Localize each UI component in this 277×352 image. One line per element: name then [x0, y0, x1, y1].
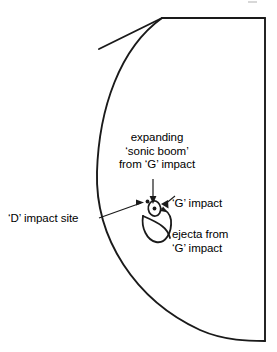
g-impact-label: ‘G’ impact — [172, 197, 222, 211]
scan-artifact-mark — [248, 1, 257, 3]
ejecta-label: ejecta from ‘G’ impact — [172, 228, 228, 255]
d-impact-site-dot — [146, 200, 150, 204]
d-impact-arrowhead-icon — [136, 200, 144, 206]
planet-outline — [97, 18, 265, 341]
diagram-vector-layer — [0, 0, 277, 352]
g-impact-label-text: ‘G’ impact — [172, 197, 222, 211]
ejecta-label-line1: ejecta from — [172, 228, 228, 242]
sonic-boom-label-line2: ‘sonic boom’ — [97, 145, 217, 159]
d-impact-site-label: ‘D’ impact site — [8, 212, 78, 226]
sonic-boom-label-line3: from ‘G’ impact — [97, 158, 217, 172]
scan-artifact-rect — [248, 1, 257, 3]
ejecta-plume-group — [143, 207, 171, 243]
planet-top-bevel — [99, 18, 162, 49]
d-impact-site-label-text: ‘D’ impact site — [8, 212, 78, 226]
impact-diagram-figure: expanding ‘sonic boom’ from ‘G’ impact ‘… — [0, 0, 277, 352]
d-impact-callout — [99, 200, 149, 219]
g-impact-arrowhead-icon — [161, 200, 169, 209]
ejecta-label-line2: ‘G’ impact — [172, 242, 228, 256]
sonic-boom-label: expanding ‘sonic boom’ from ‘G’ impact — [97, 131, 217, 172]
ejecta-plume-outer-curve — [143, 209, 171, 242]
d-impact-leader-line — [99, 203, 141, 218]
g-impact-point-dot — [153, 207, 157, 211]
planet-limb-arc — [97, 18, 265, 341]
sonic-boom-ring-group — [147, 200, 161, 217]
sonic-boom-label-line1: expanding — [97, 131, 217, 145]
